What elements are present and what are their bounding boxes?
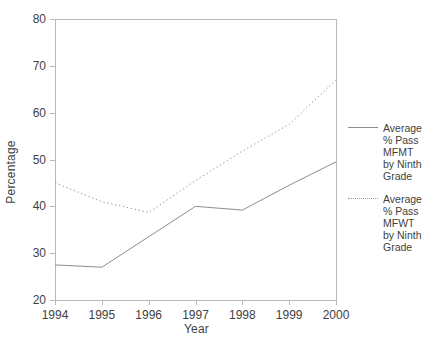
x-tick-label-1996: 1996 — [135, 308, 162, 322]
y-axis-title: Percentage — [0, 0, 22, 343]
y-tick-label-80: 80 — [33, 12, 46, 26]
x-tick-label-1997: 1997 — [182, 308, 209, 322]
x-tick-label-1995: 1995 — [88, 308, 115, 322]
x-tick-label-1998: 1998 — [229, 308, 256, 322]
plot-area: 80706050403020 1994199519961997199819992… — [55, 19, 337, 301]
chart-legend: Average % Pass MFMT by Ninth Grade Avera… — [348, 122, 432, 264]
y-tick-label-40: 40 — [33, 199, 46, 213]
y-axis-title-text: Percentage — [4, 140, 18, 203]
legend-item-mfmt-label: Average % Pass MFMT by Ninth Grade — [383, 122, 422, 182]
x-tick-label-1994: 1994 — [42, 308, 69, 322]
line-chart-figure: Percentage 80706050403020 19941995199619… — [0, 0, 432, 343]
legend-line-dotted-icon — [348, 193, 378, 204]
series-lines — [55, 19, 337, 301]
series-line-0 — [55, 162, 336, 267]
y-tick-label-20: 20 — [33, 293, 46, 307]
series-line-1 — [55, 80, 336, 213]
legend-item-mfmt: Average % Pass MFMT by Ninth Grade — [348, 122, 432, 182]
x-axis-title: Year — [55, 322, 338, 336]
x-tick-label-1999: 1999 — [276, 308, 303, 322]
y-tick-label-60: 60 — [33, 106, 46, 120]
legend-item-mfwt: Average % Pass MFWT by Ninth Grade — [348, 193, 432, 253]
y-tick-label-50: 50 — [33, 153, 46, 167]
x-tick-label-2000: 2000 — [323, 308, 350, 322]
legend-line-solid-icon — [348, 122, 378, 133]
legend-item-mfwt-label: Average % Pass MFWT by Ninth Grade — [383, 193, 422, 253]
y-tick-label-70: 70 — [33, 59, 46, 73]
y-tick-label-30: 30 — [33, 246, 46, 260]
